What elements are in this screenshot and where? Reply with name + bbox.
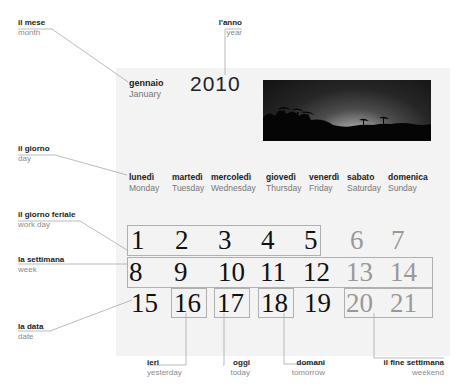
annotation-en: date [18,332,43,342]
dow-it: lunedì [129,172,159,183]
date-16: 16 [174,289,201,317]
annotation-date: la data date [18,322,43,342]
dow-en: Saturday [347,183,381,194]
annotation-weekend: il fine settimana weekend [370,358,444,378]
date-13: 13 [346,258,373,286]
date-9: 9 [174,258,188,286]
date-15: 15 [131,289,158,317]
date-7: 7 [391,226,405,254]
annotation-yesterday: ieri yesterday [147,358,182,378]
date-11: 11 [260,258,286,286]
date-18: 18 [261,289,288,317]
date-10: 10 [218,258,245,286]
annotation-it: il mese [18,18,45,28]
date-5: 5 [304,226,318,254]
dow-wednesday: mercoledì Wednesday [211,172,256,194]
annotation-en: month [18,28,45,38]
dow-en: Wednesday [211,183,256,194]
annotation-en: today [212,368,250,378]
annotation-today: oggi today [212,358,250,378]
date-20: 20 [346,289,373,317]
leader-lines [0,0,459,390]
annotation-en: year [200,28,242,38]
annotation-en: weekend [370,368,444,378]
date-19: 19 [304,289,331,317]
dow-monday: lunedì Monday [129,172,159,194]
annotation-year: l'anno year [200,18,242,38]
annotation-en: yesterday [147,368,182,378]
dow-en: Thursday [266,183,301,194]
dow-it: mercoledì [211,172,256,183]
date-21: 21 [390,289,417,317]
annotation-it: la settimana [18,255,64,265]
annotation-it: oggi [212,358,250,368]
dow-saturday: sabato Saturday [347,172,381,194]
annotation-it: la data [18,322,43,332]
annotation-it: ieri [147,358,182,368]
annotation-en: day [18,154,50,164]
date-8: 8 [129,258,143,286]
dow-it: domenica [388,172,428,183]
dow-it: giovedì [266,172,301,183]
dow-thursday: giovedì Thursday [266,172,301,194]
dow-en: Monday [129,183,159,194]
month-en: January [129,89,164,100]
calendar-month: gennaio January [129,78,164,100]
dow-friday: venerdì Friday [309,172,339,194]
annotation-workday: il giorno feriale work day [18,210,75,230]
annotation-day: il giorno day [18,144,50,164]
sunset-palm-photo [263,80,431,141]
dow-tuesday: martedì Tuesday [172,172,204,194]
annotation-en: work day [18,220,75,230]
date-14: 14 [390,258,417,286]
annotation-it: domani [280,358,325,368]
date-6: 6 [350,226,364,254]
dow-en: Sunday [388,183,428,194]
date-2: 2 [175,226,189,254]
annotation-it: il fine settimana [370,358,444,368]
dow-en: Friday [309,183,339,194]
date-3: 3 [218,226,232,254]
date-12: 12 [303,258,330,286]
dow-sunday: domenica Sunday [388,172,428,194]
annotation-month: il mese month [18,18,45,38]
dow-it: martedì [172,172,204,183]
dow-it: venerdì [309,172,339,183]
dow-it: sabato [347,172,381,183]
annotation-en: tomorrow [280,368,325,378]
month-it: gennaio [129,78,164,89]
annotation-it: il giorno feriale [18,210,75,220]
annotation-week: la settimana week [18,255,64,275]
dow-en: Tuesday [172,183,204,194]
date-17: 17 [217,289,244,317]
annotation-it: l'anno [200,18,242,28]
date-1: 1 [131,226,145,254]
annotation-tomorrow: domani tomorrow [280,358,325,378]
date-4: 4 [261,226,275,254]
calendar-year: 2010 [190,72,241,96]
annotation-en: week [18,265,64,275]
annotation-it: il giorno [18,144,50,154]
